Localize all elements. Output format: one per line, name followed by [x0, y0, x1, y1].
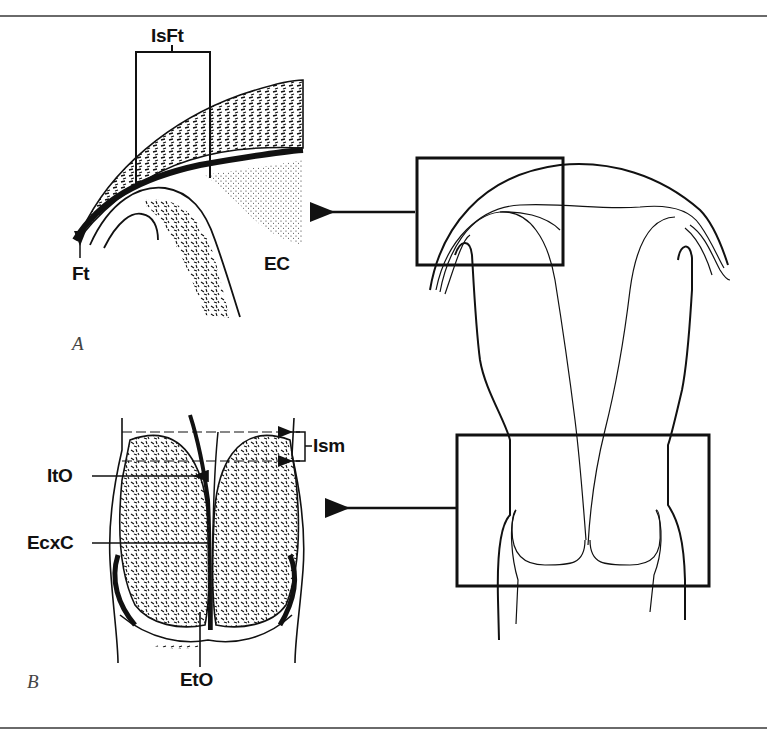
- label-isft: IsFt: [151, 26, 184, 45]
- label-eto: EtO: [180, 670, 213, 689]
- panel-b-drawing: [92, 415, 312, 667]
- highlight-box-a: [417, 158, 563, 265]
- panel-a-drawing: [75, 45, 303, 318]
- label-ito: ItO: [47, 466, 73, 485]
- label-ft: Ft: [72, 264, 89, 283]
- label-ism: Ism: [313, 436, 345, 455]
- label-ec: EC: [264, 254, 290, 273]
- panel-label-b: B: [27, 672, 39, 691]
- panel-label-a: A: [72, 334, 84, 353]
- label-ecxc: EcxC: [27, 533, 73, 552]
- uterus-overview-drawing: [430, 164, 730, 640]
- anatomy-figure: [0, 0, 767, 736]
